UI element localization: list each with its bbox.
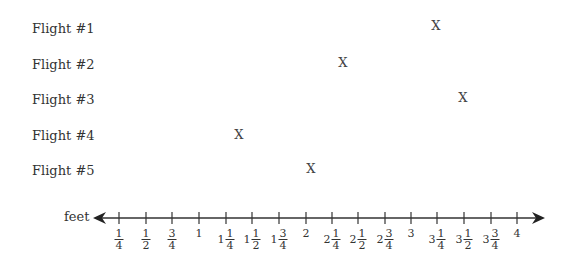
tick-label: 312 — [456, 228, 473, 251]
tick-label: 114 — [218, 228, 235, 251]
tick-label: 334 — [483, 228, 500, 251]
tick-label: 2 — [303, 227, 310, 240]
tick-label: 234 — [377, 228, 394, 251]
tick-label: 314 — [429, 228, 446, 251]
tick-label: 214 — [324, 228, 341, 251]
tick-label: 3 — [408, 227, 415, 240]
tick-label: 4 — [514, 227, 521, 240]
tick-label: 134 — [271, 228, 288, 251]
tick-label: 1 — [196, 227, 203, 240]
tick-label: 14 — [115, 228, 124, 251]
tick-label: 12 — [142, 228, 151, 251]
tick-label: 34 — [168, 228, 177, 251]
tick-label: 112 — [244, 228, 261, 251]
tick-label: 212 — [350, 228, 367, 251]
